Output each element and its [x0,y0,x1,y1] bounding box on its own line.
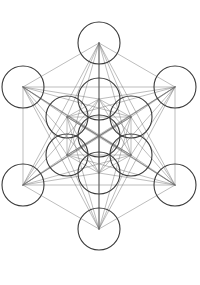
page-canvas [0,0,200,285]
metatrons-cube-figure [0,0,200,285]
figure-background [0,0,200,285]
